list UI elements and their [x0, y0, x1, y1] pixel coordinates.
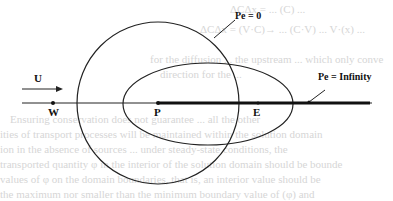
diagram-canvas: U W P E Pe = 0 Pe = Infinity — [0, 0, 393, 201]
point-e-label: E — [253, 106, 260, 118]
pe-zero-leader — [214, 20, 235, 38]
flow-arrow-icon — [56, 86, 63, 92]
point-e-dot — [256, 101, 259, 104]
pe-infinity-leader — [309, 90, 325, 102]
point-w-dot — [51, 101, 55, 105]
pe-infinity-leader-dot — [308, 101, 311, 104]
point-p-dot — [156, 101, 160, 105]
pe-infinity-label: Pe = Infinity — [318, 71, 371, 82]
flow-label: U — [34, 72, 42, 84]
pe-zero-label: Pe = 0 — [235, 10, 261, 21]
point-p-label: P — [154, 106, 161, 118]
point-w-label: W — [48, 106, 59, 118]
